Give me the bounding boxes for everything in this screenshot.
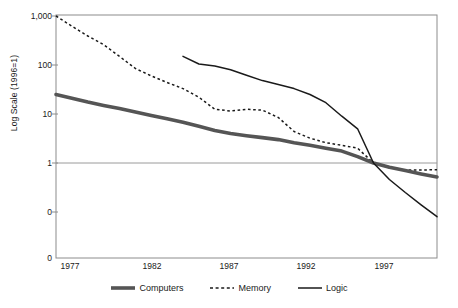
x-tick-label: 1987	[204, 262, 254, 271]
x-tick-label: 1992	[281, 262, 331, 271]
legend-item-logic: Logic	[297, 283, 348, 293]
legend-label: Computers	[139, 283, 183, 293]
dashed-line-swatch-icon	[209, 283, 235, 293]
legend-item-computers: Computers	[110, 283, 183, 293]
legend-label: Memory	[238, 283, 271, 293]
x-axis-tick-labels: 1977 1982 1987 1992 1997	[0, 0, 458, 308]
thin-line-swatch-icon	[297, 283, 323, 293]
legend-label: Logic	[326, 283, 348, 293]
x-tick-label: 1997	[359, 262, 409, 271]
chart-legend: Computers Memory Logic	[0, 283, 458, 293]
x-tick-label: 1977	[45, 262, 95, 271]
thick-line-swatch-icon	[110, 283, 136, 293]
chart-figure: 1,000 100 10 1 0 0 Log Scale (1996=1) 19…	[0, 0, 458, 308]
x-tick-label: 1982	[127, 262, 177, 271]
legend-item-memory: Memory	[209, 283, 271, 293]
